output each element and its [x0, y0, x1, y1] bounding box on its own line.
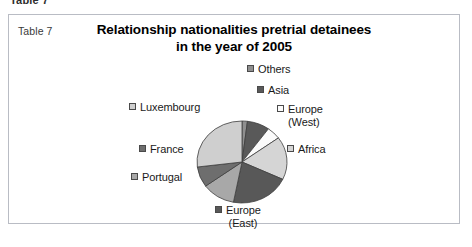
pie-chart: Others Asia Europe (West) Africa Europe … [9, 59, 461, 225]
pie-label-africa-text: Africa [298, 143, 326, 155]
pie-slice-group [197, 121, 287, 203]
pie-label-luxembourg: Luxembourg [129, 101, 200, 114]
figure-frame: Table 7 Relationship nationalities pretr… [8, 14, 460, 224]
pie-label-asia: Asia [257, 84, 289, 97]
pie-label-europe-west-subtext: (West) [277, 116, 323, 129]
chart-title: Relationship nationalities pretrial deta… [59, 21, 409, 55]
clipped-page-caption: Table 7 [10, 0, 130, 6]
pie-label-others-text: Others [258, 63, 290, 75]
chart-title-line-2: in the year of 2005 [59, 38, 409, 55]
pie-label-france-text: France [150, 143, 184, 155]
chart-plot-area: Others Asia Europe (West) Africa Europe … [9, 59, 461, 225]
legend-swatch-asia [257, 86, 264, 93]
legend-swatch-portugal [131, 173, 138, 180]
legend-swatch-europe-west [277, 105, 284, 112]
legend-swatch-luxembourg [129, 103, 136, 110]
pie-label-europe-east-subtext: (East) [215, 217, 261, 230]
pie-label-europe-east: Europe (East) [215, 204, 261, 230]
figure-heading: Table 7 Relationship nationalities pretr… [9, 20, 461, 60]
clipped-caption-text: Table 7 [10, 0, 130, 6]
pie-label-luxembourg-text: Luxembourg [140, 101, 200, 113]
pie-slice-luxembourg [197, 121, 242, 167]
pie-label-others: Others [247, 63, 290, 76]
pie-chart-svg [194, 119, 290, 205]
pie-label-africa: Africa [287, 143, 326, 156]
chart-title-line-1: Relationship nationalities pretrial deta… [97, 22, 372, 37]
legend-swatch-africa [287, 145, 294, 152]
legend-swatch-others [247, 65, 254, 72]
legend-swatch-france [139, 145, 146, 152]
pie-label-france: France [139, 143, 184, 156]
pie-label-europe-west-text: Europe [288, 103, 323, 115]
pie-label-europe-east-text: Europe [226, 204, 261, 216]
pie-label-europe-west: Europe (West) [277, 103, 323, 129]
pie-label-portugal-text: Portugal [142, 171, 182, 183]
pie-label-portugal: Portugal [131, 171, 182, 184]
legend-swatch-europe-east [215, 206, 222, 213]
table-number-label: Table 7 [18, 25, 53, 37]
pie-label-asia-text: Asia [268, 84, 289, 96]
